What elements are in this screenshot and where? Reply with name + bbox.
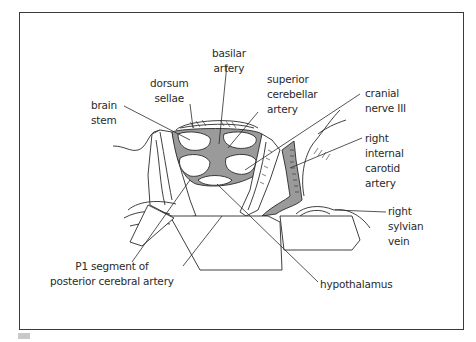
label-line: artery xyxy=(212,61,246,76)
label-cranial-nerve-iii: cranial nerve III xyxy=(365,86,406,116)
label-line: sellae xyxy=(150,91,189,106)
label-basilar-artery: basilar artery xyxy=(212,46,246,76)
label-line: basilar xyxy=(212,46,246,61)
label-line: cranial xyxy=(365,86,406,101)
label-line: artery xyxy=(365,176,404,191)
label-line: internal xyxy=(365,146,404,161)
label-line: dorsum xyxy=(150,76,189,91)
label-line: posterior cerebral artery xyxy=(50,274,174,289)
label-line: cerebellar xyxy=(267,87,318,102)
lower-retractor xyxy=(170,216,282,270)
label-right-internal-carotid-artery: right internal carotid artery xyxy=(365,131,404,191)
label-line: right xyxy=(388,204,423,219)
label-right-sylvian-vein: right sylvian vein xyxy=(388,204,423,249)
label-line: superior xyxy=(267,72,318,87)
label-dorsum-sellae: dorsum sellae xyxy=(150,76,189,106)
label-line: hypothalamus xyxy=(320,277,392,292)
label-superior-cerebellar-artery: superior cerebellar artery xyxy=(267,72,318,117)
label-line: stem xyxy=(91,113,117,128)
label-line: carotid xyxy=(365,161,404,176)
label-line: right xyxy=(365,131,404,146)
label-line: nerve III xyxy=(365,101,406,116)
label-line: sylvian xyxy=(388,219,423,234)
label-brain-stem: brain stem xyxy=(91,98,117,128)
label-line: artery xyxy=(267,102,318,117)
label-hypothalamus: hypothalamus xyxy=(320,277,392,292)
label-line: brain xyxy=(91,98,117,113)
label-p1-segment: P1 segment of posterior cerebral artery xyxy=(50,259,174,289)
label-line: P1 segment of xyxy=(50,259,174,274)
label-line: vein xyxy=(388,234,423,249)
